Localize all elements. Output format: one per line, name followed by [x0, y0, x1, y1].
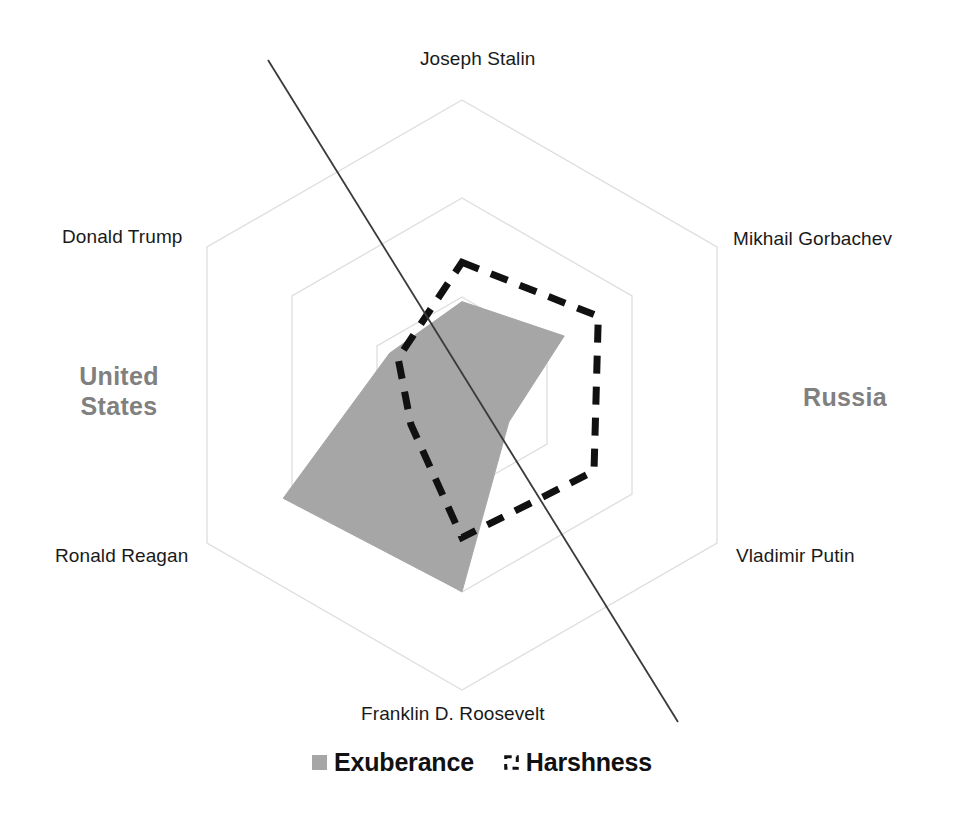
legend-label-exuberance: Exuberance — [334, 748, 474, 777]
chart-legend: Exuberance Harshness — [0, 748, 964, 777]
axis-label-vladimir-putin: Vladimir Putin — [736, 545, 855, 567]
legend-item-exuberance[interactable]: Exuberance — [312, 748, 474, 777]
axis-label-mikhail-gorbachev: Mikhail Gorbachev — [733, 228, 892, 250]
axis-label-ronald-reagan: Ronald Reagan — [55, 545, 188, 567]
axis-label-joseph-stalin: Joseph Stalin — [420, 48, 535, 70]
legend-item-harshness[interactable]: Harshness — [504, 748, 652, 777]
region-divider-line — [268, 60, 678, 722]
axis-label-franklin-d-roosevelt: Franklin D. Roosevelt — [361, 703, 545, 725]
axis-label-donald-trump: Donald Trump — [62, 226, 183, 248]
legend-label-harshness: Harshness — [526, 748, 652, 777]
exuberance-swatch-icon — [312, 755, 327, 770]
region-label-united-states-line1: United — [44, 362, 194, 392]
series-exuberance-area — [283, 302, 564, 592]
radar-chart: Joseph Stalin Mikhail Gorbachev Vladimir… — [0, 0, 964, 815]
region-label-russia-line1: Russia — [770, 383, 920, 413]
region-label-united-states: United States — [44, 362, 194, 421]
region-label-united-states-line2: States — [44, 392, 194, 422]
harshness-swatch-icon — [504, 755, 519, 770]
region-label-russia: Russia — [770, 383, 920, 413]
